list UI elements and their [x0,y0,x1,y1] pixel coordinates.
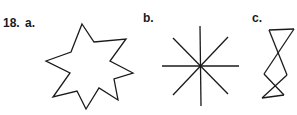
figures-canvas [0,0,297,115]
seven-pointed-star-icon [46,24,133,109]
zigzag-figure-icon [262,29,294,98]
asterisk-icon [162,26,239,106]
